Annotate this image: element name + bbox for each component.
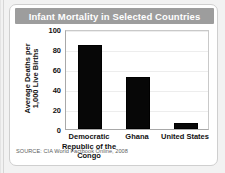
- page-edge-rule-outer: [0, 0, 1, 173]
- x-tick-label-2: United States: [159, 132, 211, 142]
- y-axis-title: Average Deaths per 1,000 Live Births: [24, 28, 40, 128]
- y-tick-80: 80: [53, 46, 61, 55]
- bar-1: [126, 77, 150, 129]
- chart-title-band: Infant Mortality in Selected Countries: [15, 8, 214, 24]
- chart-title: Infant Mortality in Selected Countries: [29, 11, 201, 22]
- y-tick-100: 100: [48, 26, 61, 35]
- y-tick-40: 40: [53, 86, 61, 95]
- bar-2: [174, 123, 198, 129]
- chart-card: Infant Mortality in Selected Countries A…: [9, 4, 218, 166]
- x-tick-label-1: Ghana: [111, 132, 163, 142]
- bar-0: [78, 45, 102, 129]
- screenshot-root: Infant Mortality in Selected Countries A…: [0, 0, 225, 173]
- bar-series: [66, 31, 208, 129]
- page-edge-rule: [3, 0, 4, 173]
- y-tick-20: 20: [53, 106, 61, 115]
- source-note: SOURCE: CIA World Factbook Online, 2008: [16, 148, 128, 154]
- y-tick-60: 60: [53, 66, 61, 75]
- y-axis-tick-labels: 020406080100: [41, 26, 63, 130]
- y-axis-title-line2: 1,000 Live Births: [32, 43, 40, 113]
- plot-area: [65, 30, 209, 130]
- chart-area: Average Deaths per 1,000 Live Births 020…: [15, 26, 214, 143]
